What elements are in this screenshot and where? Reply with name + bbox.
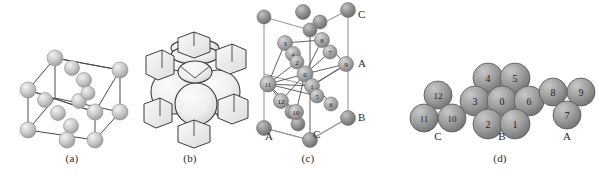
svg-text:2: 2 (295, 59, 299, 67)
cluster-label-a: A (547, 130, 587, 142)
svg-text:4: 4 (486, 73, 491, 84)
svg-text:9: 9 (579, 87, 584, 98)
svg-text:12: 12 (278, 98, 286, 106)
panel-c-stack-label-c-top: C (358, 8, 365, 20)
panel-a-caption: (a) (42, 152, 102, 164)
cluster-label-b: B (482, 130, 522, 142)
svg-text:1: 1 (513, 119, 518, 130)
svg-text:6: 6 (527, 96, 532, 107)
svg-text:11: 11 (420, 114, 429, 124)
cluster-b-spheres: 4 5 3 0 6 2 1 (460, 63, 544, 139)
svg-text:7: 7 (328, 49, 332, 57)
svg-text:10: 10 (448, 114, 458, 124)
panel-c-stack-label-a-mid: A (358, 57, 366, 69)
svg-text:9: 9 (344, 61, 348, 69)
svg-text:11: 11 (265, 81, 272, 89)
panel-a-fcc-unit-cell (0, 0, 150, 155)
panel-d-close-packed-clusters: 12 11 10 4 5 3 0 6 2 1 8 9 7 (405, 60, 598, 140)
svg-text:5: 5 (513, 73, 518, 84)
svg-text:0: 0 (303, 71, 307, 79)
svg-text:5: 5 (315, 93, 319, 101)
cluster-label-c: C (418, 130, 458, 142)
panel-b-space-filling-cell (140, 0, 255, 155)
cluster-a-spheres: 8 9 7 (539, 78, 595, 129)
panel-c-stack-label-a-bottom: A (265, 130, 273, 142)
crystal-structure-figure: (a) (0, 0, 598, 183)
panel-c-caption: (c) (278, 152, 338, 164)
svg-text:10: 10 (293, 109, 301, 117)
panel-b-caption: (b) (160, 152, 220, 164)
svg-text:3: 3 (283, 40, 287, 48)
svg-text:6: 6 (329, 101, 333, 109)
svg-text:7: 7 (565, 110, 570, 121)
svg-text:8: 8 (320, 37, 324, 45)
panel-d-caption: (d) (470, 152, 530, 164)
svg-text:3: 3 (473, 96, 478, 107)
svg-text:0: 0 (500, 96, 505, 107)
panel-c-stack-label-c-bottom: C (313, 128, 320, 140)
numbered-atoms-c: 3 4 2 8 7 9 0 1 5 6 11 12 10 (260, 33, 354, 120)
svg-text:2: 2 (486, 119, 491, 130)
panel-c-stack-label-b: B (358, 111, 365, 123)
atom-spheres-a (20, 50, 128, 148)
svg-text:8: 8 (551, 87, 556, 98)
svg-text:12: 12 (434, 91, 443, 101)
cluster-c-spheres: 12 11 10 (410, 81, 466, 132)
